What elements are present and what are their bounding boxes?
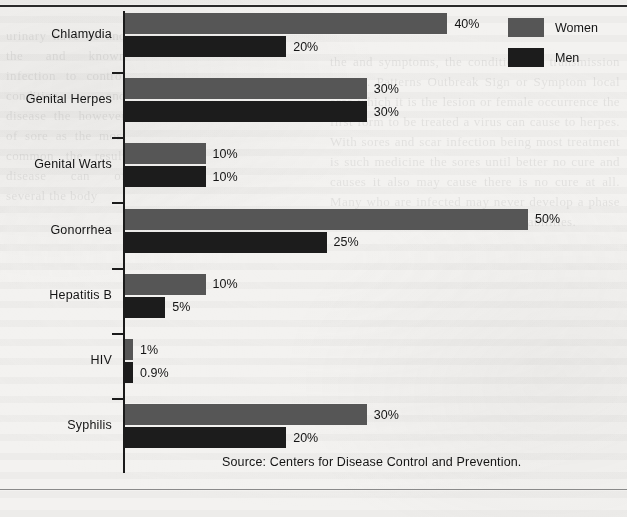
- chart-legend: WomenMen: [508, 18, 623, 78]
- bar-value-label: 30%: [374, 105, 399, 119]
- category-label-syphilis: Syphilis: [0, 418, 112, 432]
- axis-tick: [112, 137, 125, 139]
- bar-value-label: 10%: [213, 277, 238, 291]
- bar-men: [125, 297, 165, 318]
- legend-label: Women: [555, 21, 598, 35]
- category-label-chlamydia: Chlamydia: [0, 27, 112, 41]
- bar-row: 50%: [125, 209, 585, 230]
- legend-swatch-women: [508, 18, 544, 37]
- axis-tick: [112, 202, 125, 204]
- bar-women: [125, 13, 447, 34]
- bar-value-label: 25%: [334, 235, 359, 249]
- category-group: Genital Herpes30%30%: [0, 78, 627, 122]
- bar-men: [125, 36, 286, 57]
- bar-row: 30%: [125, 78, 585, 99]
- bar-value-label: 50%: [535, 212, 560, 226]
- bar-row: 30%: [125, 404, 585, 425]
- scanned-chart-page: the and symptoms, the conditions of tran…: [0, 0, 627, 517]
- category-group: Genital Warts10%10%: [0, 143, 627, 187]
- category-group: HIV1%0.9%: [0, 339, 627, 383]
- bar-women: [125, 78, 367, 99]
- bar-women: [125, 339, 133, 360]
- category-label-gonorrhea: Gonorrhea: [0, 223, 112, 237]
- axis-tick: [112, 333, 125, 335]
- bar-men: [125, 427, 286, 448]
- legend-item-men: Men: [508, 48, 623, 67]
- legend-item-women: Women: [508, 18, 623, 37]
- bar-value-label: 20%: [293, 431, 318, 445]
- category-group: Gonorrhea50%25%: [0, 209, 627, 253]
- bar-value-label: 0.9%: [140, 366, 169, 380]
- bar-men: [125, 362, 133, 383]
- bar-row: 10%: [125, 274, 585, 295]
- bar-row: 30%: [125, 101, 585, 122]
- legend-swatch-men: [508, 48, 544, 67]
- category-label-hepatitis-b: Hepatitis B: [0, 288, 112, 302]
- bar-value-label: 20%: [293, 40, 318, 54]
- axis-tick: [112, 398, 125, 400]
- legend-label: Men: [555, 51, 579, 65]
- bar-value-label: 5%: [172, 300, 190, 314]
- category-group: Syphilis30%20%: [0, 404, 627, 448]
- bar-women: [125, 143, 206, 164]
- bar-row: 10%: [125, 166, 585, 187]
- bottom-horizontal-rule: [0, 489, 627, 490]
- category-label-genital-herpes: Genital Herpes: [0, 92, 112, 106]
- bar-row: 1%: [125, 339, 585, 360]
- category-group: Hepatitis B10%5%: [0, 274, 627, 318]
- bar-row: 10%: [125, 143, 585, 164]
- bar-women: [125, 209, 528, 230]
- bar-men: [125, 166, 206, 187]
- category-label-hiv: HIV: [0, 353, 112, 367]
- bar-value-label: 10%: [213, 170, 238, 184]
- bar-value-label: 30%: [374, 408, 399, 422]
- bar-value-label: 40%: [454, 17, 479, 31]
- bar-row: 0.9%: [125, 362, 585, 383]
- bar-women: [125, 404, 367, 425]
- bar-row: 20%: [125, 427, 585, 448]
- axis-tick: [112, 72, 125, 74]
- bar-value-label: 10%: [213, 147, 238, 161]
- bar-men: [125, 232, 327, 253]
- bar-men: [125, 101, 367, 122]
- bar-value-label: 30%: [374, 82, 399, 96]
- axis-tick: [112, 268, 125, 270]
- bar-row: 5%: [125, 297, 585, 318]
- source-caption: Source: Centers for Disease Control and …: [222, 455, 521, 469]
- bar-row: 25%: [125, 232, 585, 253]
- bar-value-label: 1%: [140, 343, 158, 357]
- category-label-genital-warts: Genital Warts: [0, 157, 112, 171]
- bar-women: [125, 274, 206, 295]
